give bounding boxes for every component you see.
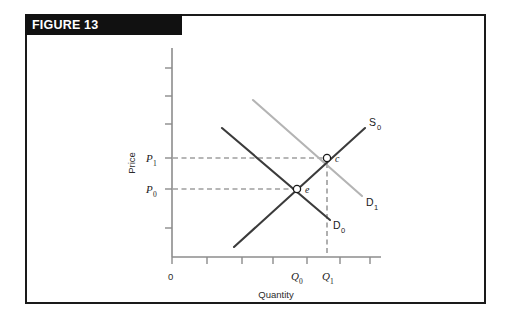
- quantity-tick-Q1-subscript: 1: [330, 277, 334, 286]
- dashed-guides: [173, 158, 327, 256]
- price-tick-P1-subscript: 1: [153, 159, 157, 168]
- point-marker-e[interactable]: [293, 185, 300, 192]
- quantity-tick-label-Q0: Q 0: [291, 270, 303, 286]
- quantity-tick-Q0-text: Q: [291, 270, 299, 282]
- quantity-tick-Q0-subscript: 0: [299, 277, 303, 286]
- x-axis-title: Quantity: [258, 289, 294, 300]
- quantity-tick-label-Q1: Q 1: [322, 270, 334, 286]
- curves-group: [222, 100, 365, 247]
- quantity-tick-Q1-text: Q: [322, 270, 330, 282]
- price-tick-P0-subscript: 0: [153, 190, 157, 199]
- price-tick-label-P0: P 0: [145, 183, 157, 199]
- y-axis-title: Price: [126, 152, 137, 174]
- curve-label-S0-subscript: 0: [377, 123, 381, 132]
- curve-label-D1-subscript: 1: [374, 203, 378, 212]
- point-marker-c[interactable]: [323, 154, 330, 161]
- figure-title-text: FIGURE 13: [25, 18, 98, 32]
- price-tick-P0-text: P: [145, 183, 153, 195]
- curve-label-D0-subscript: 0: [341, 226, 345, 235]
- x-axis-ticks: [172, 257, 370, 264]
- curve-label-S0: S 0: [369, 116, 381, 132]
- curve-label-D0-text: D: [333, 219, 341, 231]
- figure-container: e c S 0 D 0 D 1 P 1 P 0 Q 0 Q: [0, 0, 513, 331]
- figure-title-banner: FIGURE 13: [25, 14, 182, 35]
- curve-label-D1-text: D: [366, 196, 374, 208]
- supply-demand-plot: e c S 0 D 0 D 1 P 1 P 0 Q 0 Q: [0, 0, 513, 331]
- price-tick-P1-text: P: [145, 152, 153, 164]
- y-axis-ticks: [165, 68, 172, 228]
- origin-label: 0: [168, 271, 173, 282]
- price-tick-label-P1: P 1: [145, 152, 157, 168]
- curve-label-S0-text: S: [369, 116, 376, 128]
- point-label-e: e: [305, 184, 310, 195]
- axes-group: [172, 48, 381, 257]
- equilibrium-markers: [293, 154, 330, 192]
- point-label-c: c: [335, 153, 340, 164]
- curve-label-D1: D 1: [366, 196, 378, 212]
- curve-label-D0: D 0: [333, 219, 345, 235]
